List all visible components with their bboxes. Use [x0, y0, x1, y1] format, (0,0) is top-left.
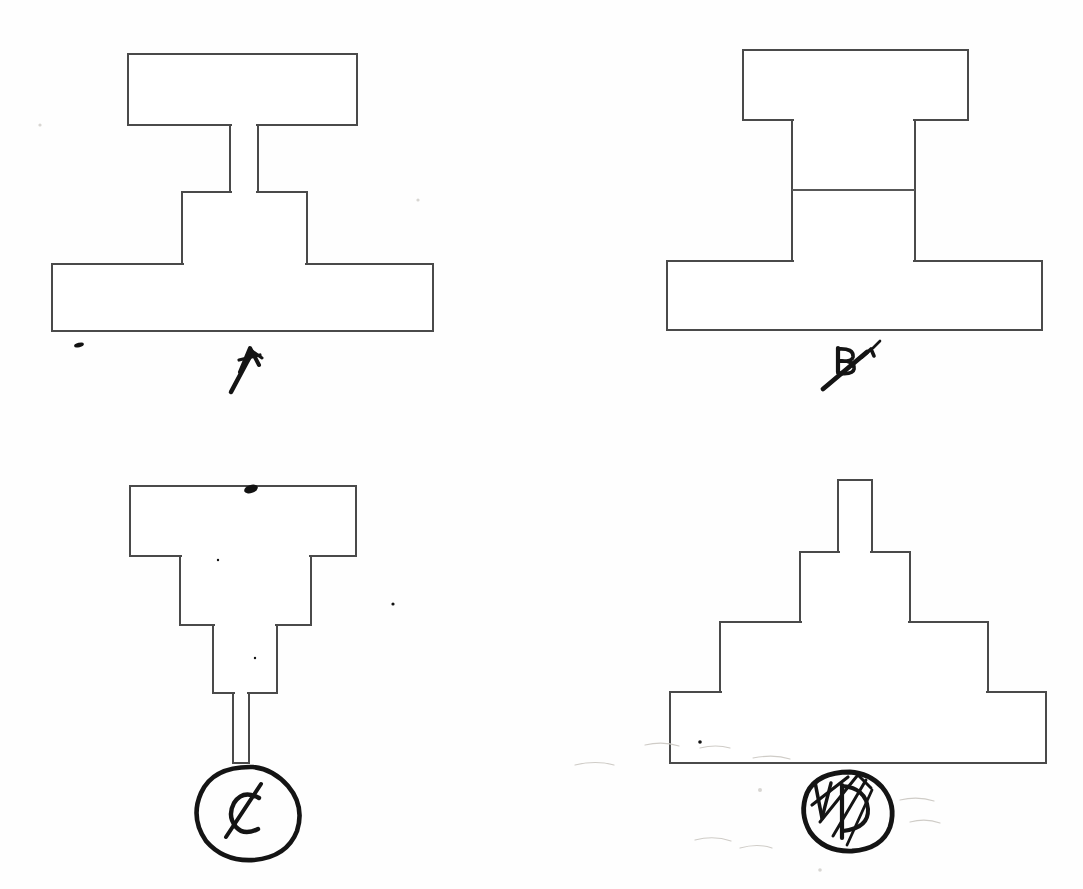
figure-c-joint-1 — [182, 555, 309, 558]
smudge-dot-3 — [38, 123, 41, 126]
faint-dot-right-of-figure-c — [391, 602, 394, 605]
sketch-canvas: A B — [0, 0, 1083, 889]
figure-c-joint-3 — [235, 692, 247, 695]
faint-dot-left-of-figure-d-label — [698, 740, 702, 744]
figure-c-top-plate — [130, 486, 356, 556]
figure-d-third-block — [720, 622, 988, 692]
figure-d-joint-1 — [840, 551, 870, 554]
figure-c-joint-2 — [215, 624, 275, 627]
figure-d-joint-3 — [722, 691, 986, 694]
figure-a-joint-top — [232, 124, 256, 127]
smudge-dot-4 — [416, 198, 419, 201]
figure-a-joint-base — [184, 263, 305, 266]
sketch-sheet: A B — [0, 0, 1083, 889]
figure-a-mid-block — [182, 192, 307, 264]
figure-c-second-block — [180, 556, 311, 625]
figure-c-third-block — [213, 625, 277, 693]
figure-b-top-plate — [743, 50, 968, 120]
figure-b-joint-top — [794, 119, 913, 122]
smudge-dot-1 — [758, 788, 762, 792]
figure-b-column-upper — [792, 120, 915, 190]
figure-b-column-lower — [792, 190, 915, 261]
faint-dot-figure-c-upper — [217, 559, 219, 561]
figure-b-joint-base — [794, 260, 913, 263]
figure-d-thin-stem — [838, 480, 872, 552]
figure-a-base-plate — [52, 264, 433, 331]
figure-d-joint-2 — [802, 621, 908, 624]
figure-a-narrow-post — [230, 125, 258, 192]
figure-a-joint-mid — [232, 191, 256, 194]
figure-d-second-block — [800, 552, 910, 622]
smudge-dot-2 — [818, 868, 822, 872]
figure-d-base-plate — [670, 692, 1046, 763]
figure-b-base-plate — [667, 261, 1042, 330]
figure-a-top-plate — [128, 54, 357, 125]
figure-c-thin-stem — [233, 693, 249, 763]
faint-dot-figure-c-lower — [254, 657, 256, 659]
